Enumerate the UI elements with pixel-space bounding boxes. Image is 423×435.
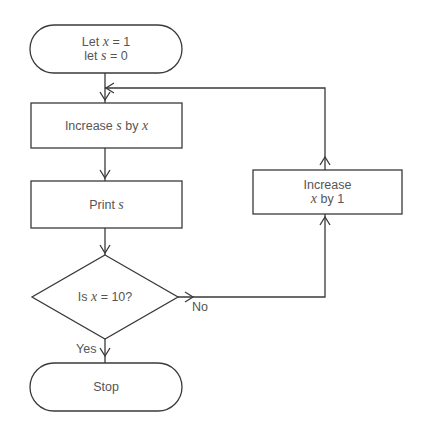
text: Increase <box>65 119 116 133</box>
no-edge-label: No <box>192 300 208 314</box>
stop-label: Stop <box>30 380 182 394</box>
flowchart-canvas <box>0 0 423 435</box>
edge-decision-to-increase-x <box>178 214 325 297</box>
print-label: Print s <box>31 198 182 212</box>
increase-x-label: Increase x by 1 <box>253 178 402 206</box>
start-label: Let x = 1 let s = 0 <box>30 35 182 63</box>
text: by <box>122 119 142 133</box>
increase-s-label: Increase s by x <box>31 119 182 133</box>
text: by 1 <box>317 192 344 206</box>
text: = 0 <box>106 49 127 63</box>
text: Print <box>89 198 118 212</box>
text: let <box>84 49 101 63</box>
text: Let <box>82 35 103 49</box>
decision-label: Is x = 10? <box>32 290 178 304</box>
text: = 10? <box>97 290 132 304</box>
text: = 1 <box>109 35 130 49</box>
variable-x: x <box>142 118 148 133</box>
variable-s: s <box>118 197 123 212</box>
text: Is <box>78 290 91 304</box>
yes-edge-label: Yes <box>76 342 96 356</box>
text: Increase <box>253 178 402 192</box>
